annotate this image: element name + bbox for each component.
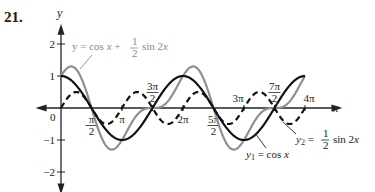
sum-label-rhs: sin 2x xyxy=(142,40,168,52)
x-axis-left-arrow xyxy=(36,105,47,112)
sum-curve-annotation: y = cos x + 1 2 sin 2x xyxy=(72,35,168,69)
x-tick-label-denominator: 2 xyxy=(89,125,95,137)
y-tick-label: −1 xyxy=(43,134,55,146)
y-axis-up-arrow xyxy=(58,24,65,35)
y-tick-label: 1 xyxy=(50,70,56,82)
y2-label-frac-den: 2 xyxy=(323,139,329,151)
x-tick-label-denominator: 2 xyxy=(211,125,217,137)
y1-label-pointer xyxy=(255,133,266,148)
problem-number: 21. xyxy=(4,9,23,25)
x-tick-label: 4π xyxy=(303,92,315,104)
x-tick-label-denominator: 2 xyxy=(272,92,278,104)
sum-label-lhs: y = cos x + xyxy=(72,40,120,52)
y2-label-frac-num: 1 xyxy=(323,127,329,139)
x-tick-label-numerator: 7π xyxy=(269,80,281,92)
sum-label-frac-num: 1 xyxy=(132,35,138,47)
sum-label-frac-den: 2 xyxy=(132,47,138,59)
origin-label: 0 xyxy=(50,111,56,123)
x-tick-label: π xyxy=(119,113,125,125)
x-axis-label: x xyxy=(332,101,339,115)
y-tick-label: −2 xyxy=(43,166,55,178)
y1-label: y1 = cos x xyxy=(245,148,289,162)
y-tick-label: 2 xyxy=(50,38,56,50)
x-tick-label: 3π xyxy=(232,92,244,104)
y-axis-label: y xyxy=(56,6,63,20)
y2-label-rhs: sin 2x xyxy=(333,133,359,145)
x-tick-label-numerator: 3π xyxy=(147,80,159,92)
y-axis-down-arrow xyxy=(58,184,65,192)
chart: 21. 21−1−2π2π3π22π5π23π7π24π y x 0 y = c… xyxy=(0,0,375,192)
y2-label-lhs: y2 = xyxy=(295,133,314,147)
x-tick-label-denominator: 2 xyxy=(150,92,156,104)
sum-label-pointer xyxy=(80,55,92,69)
y2-annotation: y2 = 1 2 sin 2x xyxy=(283,122,359,151)
